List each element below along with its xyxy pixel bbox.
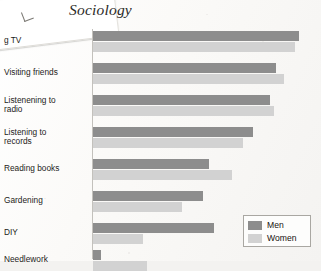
bar-women xyxy=(93,138,243,148)
bar-men xyxy=(93,250,101,260)
bar-men xyxy=(93,159,209,169)
bar-men xyxy=(93,63,276,73)
legend-entry: Men xyxy=(248,219,306,231)
category-label: Listening to records xyxy=(4,128,88,147)
chart-row: Needlework xyxy=(0,250,321,271)
legend-entry: Women xyxy=(248,232,306,244)
bar-women xyxy=(93,74,284,84)
category-label: Gardening xyxy=(4,196,88,205)
bar-men xyxy=(93,191,203,201)
legend-label: Women xyxy=(267,233,296,243)
category-label: g TV xyxy=(4,36,88,45)
category-label: Visiting friends xyxy=(4,68,88,77)
bar-women xyxy=(93,42,295,52)
category-label: DIY xyxy=(4,228,88,237)
bar-women xyxy=(93,202,182,212)
bar-chart: g TVVisiting friendsListenening to radio… xyxy=(0,29,321,261)
legend-swatch-men xyxy=(248,221,262,230)
page-curl-mark xyxy=(21,9,34,22)
bar-men xyxy=(93,127,253,137)
bar-men xyxy=(93,95,270,105)
chart-row: Listenening to radio xyxy=(0,95,321,116)
bar-women xyxy=(93,106,274,116)
bar-women xyxy=(93,261,147,271)
chart-row: g TV xyxy=(0,31,321,52)
chart-row: Reading books xyxy=(0,159,321,180)
bar-women xyxy=(93,234,143,244)
legend-swatch-women xyxy=(248,234,262,243)
page-title: Sociology xyxy=(69,1,132,19)
category-label: Listenening to radio xyxy=(4,96,88,115)
chart-row: Listening to records xyxy=(0,127,321,148)
chart-legend: MenWomen xyxy=(243,215,311,247)
bar-men xyxy=(93,31,299,41)
chart-row: Visiting friends xyxy=(0,63,321,84)
bar-women xyxy=(93,170,232,180)
legend-label: Men xyxy=(267,220,284,230)
bar-men xyxy=(93,223,214,233)
chart-row: Gardening xyxy=(0,191,321,212)
category-label: Needlework xyxy=(4,255,88,264)
category-label: Reading books xyxy=(4,164,88,173)
